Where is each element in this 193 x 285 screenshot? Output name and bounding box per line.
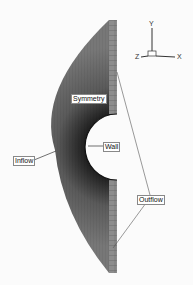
x-axis-label: X xyxy=(177,53,182,61)
outflow-strip xyxy=(109,180,117,273)
outflow-leader-top xyxy=(117,72,150,195)
outflow-label: Outflow xyxy=(137,195,165,205)
inflow-label: Inflow xyxy=(13,156,35,166)
axis-triad xyxy=(141,28,175,57)
mesh-figure xyxy=(0,0,193,285)
y-axis-label: Y xyxy=(149,20,154,28)
z-axis-label: Z xyxy=(135,53,139,61)
wall-label: Wall xyxy=(103,142,120,152)
outflow-strip xyxy=(109,20,117,114)
outflow-leader-bottom xyxy=(113,203,146,248)
inflow-leader xyxy=(34,151,56,160)
symmetry-label: Symmetry xyxy=(71,94,107,104)
